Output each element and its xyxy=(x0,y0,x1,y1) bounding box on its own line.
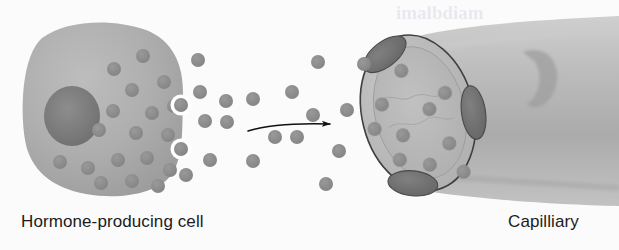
label-hormone-producing-cell: Hormone-producing cell xyxy=(21,212,204,232)
hormone-secretion-figure: imalbdiam nsm fo xyxy=(0,0,619,250)
secretion-vesicle xyxy=(171,139,192,160)
secretion-direction-arrow xyxy=(248,124,330,131)
cell-nucleus xyxy=(44,86,100,146)
label-capilliary: Capilliary xyxy=(508,212,579,232)
hormone-producing-cell xyxy=(23,22,192,196)
free-hormone-granule-group xyxy=(179,53,371,191)
secretion-vesicle xyxy=(171,95,192,116)
